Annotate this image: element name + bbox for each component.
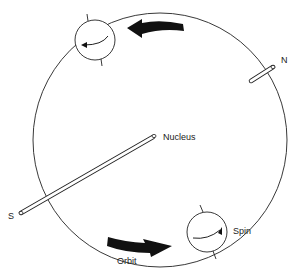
nucleus-rod-end [152,134,156,137]
orbit-arrow-bottom-icon [107,237,172,257]
orbit-spin-diagram: Nucleus N S Spin Orbit [0,0,296,277]
south-rod-end [19,211,23,214]
spin-label: Spin [233,226,251,236]
electron-top [75,14,115,66]
nucleus-label: Nucleus [163,132,196,142]
orbit-label: Orbit [117,256,137,266]
south-label: S [8,211,14,221]
north-label: N [281,55,288,65]
axis-rod [21,67,273,213]
orbit-arrow-top-icon [127,19,184,38]
north-rod-end [271,65,275,68]
